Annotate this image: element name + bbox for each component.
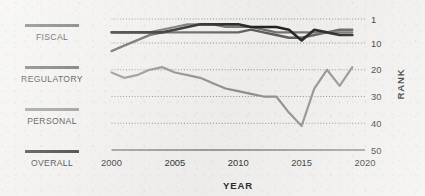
x-tick-label-2005: 2005 <box>164 157 185 168</box>
x-tick-label-2015: 2015 <box>291 157 312 168</box>
x-tick-label-2020: 2020 <box>355 157 376 168</box>
y-axis-title: RANK <box>395 69 406 100</box>
y-tick-label-10: 10 <box>371 38 381 49</box>
series-line-regulatory <box>112 67 353 126</box>
gridlines <box>112 19 366 150</box>
y-axis-ticks: 11020304050 <box>371 14 381 156</box>
y-tick-label-1: 1 <box>371 14 376 25</box>
series-lines <box>112 24 353 126</box>
y-tick-label-20: 20 <box>371 64 381 75</box>
rank-line-chart: FISCAL REGULATORY PERSONAL OVERALL 11020… <box>0 0 425 196</box>
y-tick-label-40: 40 <box>371 118 381 129</box>
y-tick-label-50: 50 <box>371 145 381 156</box>
y-tick-label-30: 30 <box>371 91 381 102</box>
x-axis-title: YEAR <box>223 180 253 191</box>
plot-area: 11020304050 20002005201020152020 YEAR RA… <box>0 0 425 196</box>
x-tick-label-2010: 2010 <box>228 157 249 168</box>
x-axis-ticks: 20002005201020152020 <box>101 157 375 168</box>
x-tick-label-2000: 2000 <box>101 157 122 168</box>
